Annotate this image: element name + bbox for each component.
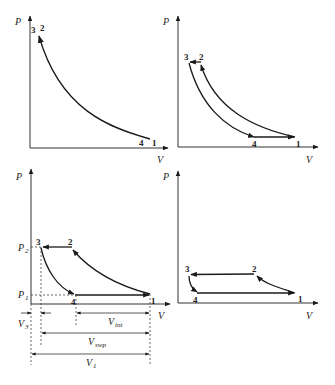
y-axis-label: P [14,16,21,27]
p2-subscript: 2 [25,247,29,255]
point-label-2: 2 [68,237,73,247]
x-axis-label: V [158,310,166,321]
panel-bottom-right: P V 3 2 4 1 [162,171,318,321]
y-axis-label: P [15,171,22,182]
point-label-1: 1 [152,138,157,148]
expansion-curve [189,276,197,292]
point-label-2: 2 [199,52,204,62]
x-axis-label: V [306,154,314,165]
point-label-2: 2 [252,264,257,274]
process-2-3 [191,274,254,275]
p2-label: P [17,242,24,253]
panel-bottom-left: P V P 2 P 1 3 2 4 1 V 3 V int V swp [15,169,170,370]
pv-diagram-figure: P V 3 2 4 1 P V 3 2 4 1 P V P 2 P [0,0,335,385]
v3-subscript: 3 [24,323,29,331]
x-axis-label: V [306,310,314,321]
point-label-3: 3 [184,52,189,62]
y-axis-label: P [162,171,169,182]
panel-top-left: P V 3 2 4 1 [14,16,168,165]
point-label-4: 4 [139,138,144,148]
point-label-3: 3 [185,264,190,274]
process-curve [39,36,150,139]
point-label-1: 1 [151,296,156,306]
point-label-3: 3 [36,237,41,247]
compression-curve [201,65,295,137]
point-label-4: 4 [71,297,76,307]
point-label-2: 2 [40,23,45,33]
point-label-4: 4 [193,295,198,305]
v1-subscript: 1 [93,362,97,370]
compression-curve [73,250,150,294]
point-label-3: 3 [31,25,36,35]
point-label-1: 1 [298,294,303,304]
compression-curve [257,276,295,293]
p1-label: P [17,289,24,300]
x-axis-label: V [157,154,165,165]
vint-subscript: int [115,321,123,329]
y-axis-label: P [162,16,169,27]
expansion-curve [41,248,74,294]
p1-subscript: 1 [25,294,29,302]
point-label-4: 4 [252,139,257,149]
panel-top-right: P V 3 2 4 1 [162,16,318,165]
vswp-subscript: swp [95,341,106,349]
point-label-1: 1 [296,139,301,149]
